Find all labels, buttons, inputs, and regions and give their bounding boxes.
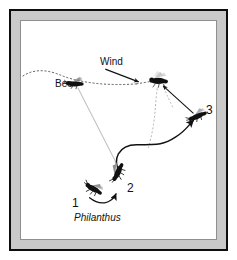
bee-captured-icon: [149, 71, 168, 88]
strike-trajectory-arrow: [117, 120, 194, 171]
philanthus-label: Philanthus: [74, 213, 121, 223]
wasp-perched-icon: [80, 177, 105, 199]
figure-frame: Wind Bee 3 2 1 Philanthus: [9, 9, 228, 251]
step-two-label: 2: [127, 182, 134, 194]
bee-label: Bee: [55, 79, 73, 89]
figure-plate: Wind Bee 3 2 1 Philanthus: [0, 0, 237, 260]
sight-line: [78, 88, 120, 170]
diagram-canvas: [21, 21, 216, 239]
bee-flight-trail: [23, 71, 153, 85]
wasp-attacking-icon: [184, 106, 209, 125]
step-three-label: 3: [206, 104, 213, 116]
figure-inner-plate: Wind Bee 3 2 1 Philanthus: [20, 20, 217, 240]
wind-arrow-icon: [105, 69, 138, 82]
attack-arrow-icon: [163, 86, 193, 113]
step-one-label: 1: [72, 197, 79, 209]
pounce-arrow-icon: [90, 194, 116, 203]
wasp-launching-icon: [106, 160, 128, 186]
descent-trail: [148, 88, 172, 148]
wind-label: Wind: [100, 57, 123, 67]
